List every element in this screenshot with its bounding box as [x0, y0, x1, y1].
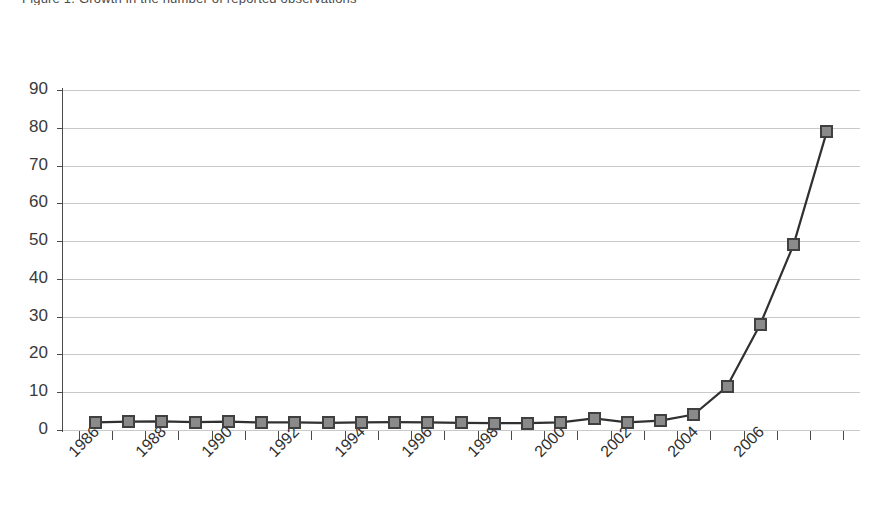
x-axis-tick-mark	[577, 431, 578, 440]
data-point-marker	[820, 125, 833, 138]
y-axis-tick-mark	[57, 354, 63, 355]
data-point-marker	[255, 416, 268, 429]
x-axis-tick-mark	[710, 431, 711, 440]
gridline	[62, 90, 860, 91]
x-axis-tick-mark	[245, 431, 246, 440]
data-point-marker	[322, 416, 335, 429]
data-point-marker	[189, 416, 202, 429]
x-axis-tick-mark	[511, 431, 512, 440]
y-axis-tick-mark	[57, 279, 63, 280]
data-point-marker	[455, 416, 468, 429]
x-axis-tick-label: 1990	[198, 423, 236, 461]
x-axis-tick-label: 2004	[664, 423, 702, 461]
y-axis-line	[62, 88, 63, 432]
data-point-marker	[687, 408, 700, 421]
chart-figure: Figure 1. Growth in the number of report…	[0, 0, 879, 512]
data-point-marker	[488, 417, 501, 430]
gridline	[62, 392, 860, 393]
x-axis-tick-label: 1988	[132, 423, 170, 461]
data-point-marker	[89, 416, 102, 429]
x-axis-tick-mark	[378, 431, 379, 440]
x-axis-tick-mark	[810, 431, 811, 440]
x-axis-tick-label: 2006	[730, 423, 768, 461]
gridline	[62, 166, 860, 167]
y-axis-tick-mark	[57, 203, 63, 204]
y-axis-tick-label: 10	[2, 381, 48, 401]
x-axis-tick-mark	[843, 431, 844, 440]
gridline	[62, 430, 860, 431]
x-axis-tick-mark	[644, 431, 645, 440]
data-point-marker	[654, 414, 667, 427]
gridline	[62, 203, 860, 204]
y-axis-tick-label: 80	[2, 117, 48, 137]
y-axis-tick-mark	[57, 128, 63, 129]
data-point-marker	[787, 238, 800, 251]
data-point-marker	[388, 416, 401, 429]
x-axis-tick-mark	[444, 431, 445, 440]
y-axis-tick-mark	[57, 241, 63, 242]
data-point-marker	[621, 416, 634, 429]
y-axis-tick-label: 90	[2, 79, 48, 99]
gridline	[62, 279, 860, 280]
data-point-marker	[288, 416, 301, 429]
data-point-marker	[155, 415, 168, 428]
y-axis-tick-label: 60	[2, 192, 48, 212]
data-point-marker	[721, 380, 734, 393]
gridline	[62, 241, 860, 242]
gridline	[62, 128, 860, 129]
data-point-marker	[754, 318, 767, 331]
y-axis-tick-label: 50	[2, 230, 48, 250]
y-axis-tick-label: 20	[2, 343, 48, 363]
y-axis-tick-mark	[57, 430, 63, 431]
figure-title: Figure 1. Growth in the number of report…	[22, 0, 662, 5]
y-axis-tick-mark	[57, 392, 63, 393]
y-axis-tick-label: 40	[2, 268, 48, 288]
data-point-marker	[421, 416, 434, 429]
gridline	[62, 317, 860, 318]
x-axis-tick-mark	[178, 431, 179, 440]
gridline	[62, 354, 860, 355]
y-axis-tick-mark	[57, 90, 63, 91]
y-axis-tick-mark	[57, 166, 63, 167]
data-point-marker	[355, 416, 368, 429]
y-axis-tick-label: 0	[2, 419, 48, 439]
y-axis-tick-label: 30	[2, 306, 48, 326]
y-axis-tick-mark	[57, 317, 63, 318]
x-axis-tick-mark	[112, 431, 113, 440]
data-point-marker	[554, 416, 567, 429]
y-axis-tick-label: 70	[2, 155, 48, 175]
x-axis-tick-mark	[777, 431, 778, 440]
data-point-marker	[521, 417, 534, 430]
x-axis-tick-mark	[311, 431, 312, 440]
data-point-marker	[122, 415, 135, 428]
data-point-marker	[588, 412, 601, 425]
data-point-marker	[222, 415, 235, 428]
